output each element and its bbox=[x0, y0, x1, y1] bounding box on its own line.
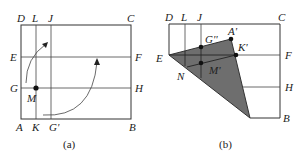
label-a: A bbox=[15, 121, 23, 133]
label-b: B bbox=[283, 112, 290, 124]
caption-a: (a) bbox=[63, 138, 76, 151]
label-f: F bbox=[284, 49, 292, 61]
label-m-prime: M' bbox=[208, 64, 221, 76]
arrow-head-icon bbox=[42, 42, 48, 48]
label-g-dprime: G'' bbox=[205, 33, 218, 45]
point-a-prime bbox=[229, 37, 234, 42]
arrow-head-icon bbox=[94, 58, 100, 65]
label-g: G bbox=[10, 82, 18, 94]
point-g-dprime bbox=[199, 45, 204, 50]
label-c: C bbox=[278, 11, 286, 23]
label-h: H bbox=[134, 82, 144, 94]
label-m: M bbox=[26, 92, 37, 104]
label-l: L bbox=[180, 11, 187, 23]
label-j: J bbox=[197, 11, 203, 23]
folding-diagram: D L J C E F G H M A K G' B (a) D L J bbox=[0, 0, 303, 162]
point-m bbox=[33, 85, 38, 90]
caption-b: (b) bbox=[219, 138, 232, 151]
panel-b: D L J C E F H B N G'' A' K' M' (b) bbox=[155, 11, 294, 151]
label-e: E bbox=[9, 51, 17, 63]
label-n: N bbox=[176, 70, 185, 82]
label-j: J bbox=[48, 12, 54, 24]
label-l: L bbox=[31, 12, 38, 24]
label-a-prime: A' bbox=[227, 25, 238, 37]
label-k: K bbox=[31, 121, 40, 133]
square-abcd bbox=[21, 25, 131, 119]
point-k-prime bbox=[234, 53, 239, 58]
label-e: E bbox=[155, 52, 163, 64]
label-g-prime: G' bbox=[49, 121, 60, 133]
label-k-prime: K' bbox=[237, 41, 248, 53]
label-c: C bbox=[127, 12, 135, 24]
label-d: D bbox=[16, 12, 25, 24]
label-d: D bbox=[164, 11, 173, 23]
point-m-prime bbox=[199, 61, 204, 66]
label-h: H bbox=[284, 81, 294, 93]
label-b: B bbox=[129, 121, 136, 133]
panel-a: D L J C E F G H M A K G' B (a) bbox=[9, 12, 144, 151]
label-f: F bbox=[134, 51, 142, 63]
